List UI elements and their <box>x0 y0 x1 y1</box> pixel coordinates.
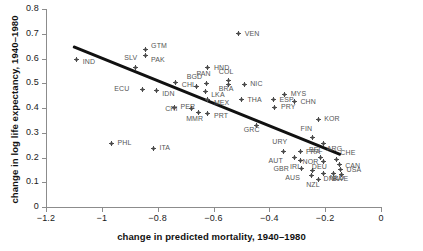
data-point-marker <box>271 97 276 102</box>
x-tick-label: −0.8 <box>138 213 178 223</box>
y-axis-label: change in log life expectancy, 1940–1980 <box>9 10 20 210</box>
data-point-label: SLV <box>124 54 137 61</box>
y-tick <box>42 158 46 159</box>
data-point-marker <box>151 146 156 151</box>
data-point-marker <box>204 81 209 86</box>
data-point-marker <box>143 47 148 52</box>
data-point-marker <box>310 135 315 140</box>
data-point-label: CRI <box>165 105 177 112</box>
data-point-label: GTM <box>151 42 167 49</box>
data-point-label: PHL <box>118 139 132 146</box>
data-point-label: GBR <box>273 165 288 172</box>
data-point-label: NZL <box>306 181 320 188</box>
data-point-marker <box>109 141 114 146</box>
data-point-marker <box>242 82 247 87</box>
x-tick <box>158 208 159 212</box>
data-point-label: MEX <box>214 99 229 106</box>
y-tick <box>42 133 46 134</box>
data-point-label: PRT <box>214 112 228 119</box>
data-point-label: URY <box>272 138 287 145</box>
x-tick-label: −0.4 <box>249 213 289 223</box>
data-point-marker <box>316 117 321 122</box>
x-tick-label: −0.2 <box>305 213 345 223</box>
x-tick <box>102 208 103 212</box>
data-point-marker <box>298 149 303 154</box>
data-point-marker <box>194 84 199 89</box>
data-point-marker <box>203 89 208 94</box>
data-point-label: LKA <box>211 91 225 98</box>
data-point-label: BEL <box>309 146 323 153</box>
x-tick-label: 0 <box>361 213 401 223</box>
data-point-label: KOR <box>324 115 339 122</box>
y-tick <box>42 59 46 60</box>
x-tick <box>46 208 47 212</box>
y-tick <box>42 83 46 84</box>
data-point-label: IND <box>83 58 95 65</box>
y-tick <box>42 108 46 109</box>
data-point-label: PRY <box>281 103 296 110</box>
data-point-marker <box>133 65 138 70</box>
y-tick <box>42 182 46 183</box>
data-point-label: AUS <box>285 174 300 181</box>
data-point-label: CHE <box>340 149 355 156</box>
data-point-label: MYS <box>291 90 306 97</box>
data-point-label: VEN <box>245 30 260 37</box>
data-point-marker <box>292 155 297 160</box>
x-tick-label: −0.6 <box>194 213 234 223</box>
x-tick-label: −1.2 <box>26 213 66 223</box>
y-tick <box>42 9 46 10</box>
data-point-label: CHN <box>300 98 315 105</box>
data-point-label: COL <box>219 68 234 75</box>
x-tick <box>214 208 215 212</box>
data-point-marker <box>282 92 287 97</box>
data-point-marker <box>154 88 159 93</box>
data-point-label: FIN <box>301 125 313 132</box>
data-point-label: ITA <box>159 144 170 151</box>
data-point-label: NOR <box>303 158 319 165</box>
data-point-label: NIC <box>250 80 262 87</box>
y-tick <box>42 207 46 208</box>
data-point-label: GRC <box>244 126 260 133</box>
data-point-label: AUT <box>268 157 282 164</box>
data-point-label: MMR <box>186 115 203 122</box>
data-point-marker <box>239 97 244 102</box>
x-axis-label: change in predicted mortality, 1940–1980 <box>0 231 423 242</box>
data-point-label: USA <box>347 166 362 173</box>
data-point-marker <box>205 111 210 116</box>
data-point-marker <box>309 173 314 178</box>
x-tick-label: −1 <box>82 213 122 223</box>
data-point-marker <box>205 65 210 70</box>
data-point-label: ECU <box>114 85 129 92</box>
x-tick <box>269 208 270 212</box>
y-axis-line <box>46 9 47 207</box>
data-point-marker <box>281 149 286 154</box>
data-point-marker <box>173 80 178 85</box>
data-point-marker <box>272 105 277 110</box>
data-point-marker <box>140 87 145 92</box>
data-point-marker <box>236 31 241 36</box>
x-tick <box>381 208 382 212</box>
data-point-label: SWE <box>332 175 348 182</box>
data-point-label: IDN <box>162 90 174 97</box>
data-point-marker <box>189 106 194 111</box>
x-tick <box>325 208 326 212</box>
data-point-marker <box>74 57 79 62</box>
data-point-marker <box>205 97 210 102</box>
data-point-marker <box>299 166 304 171</box>
data-point-label: PAN <box>197 70 211 77</box>
data-point-marker <box>143 53 148 58</box>
scatter-chart: −1.2−1−0.8−0.6−0.4−0.20 00.10.20.30.40.5… <box>0 0 423 251</box>
data-point-label: THA <box>247 96 261 103</box>
y-tick <box>42 34 46 35</box>
data-point-label: PAK <box>151 56 165 63</box>
